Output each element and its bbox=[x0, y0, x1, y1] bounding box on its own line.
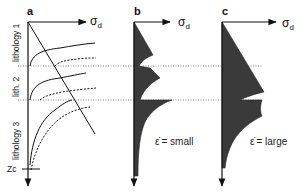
ductile-curve-lith3-dashed bbox=[31, 107, 90, 170]
zc-label: Zc bbox=[7, 164, 17, 174]
ductile-curve-lith2-solid bbox=[30, 73, 86, 100]
panel-b: b σd ε̇= small bbox=[134, 5, 193, 186]
panel-c-label: c bbox=[222, 5, 228, 17]
strength-profile-diagram: a σd lithology 1 lith. 2 lithology 3 Zc … bbox=[0, 0, 302, 194]
sigma-label-c: σd bbox=[282, 16, 294, 32]
sigma-label-a: σd bbox=[90, 14, 102, 30]
sigma-label-b: σd bbox=[178, 15, 190, 31]
panel-c: c σd ε̇= large bbox=[222, 5, 294, 186]
layer-label-lith-2: lith. 2 bbox=[11, 76, 21, 97]
ductile-curve-lith1-solid bbox=[30, 43, 95, 66]
panel-b-label: b bbox=[134, 5, 141, 17]
layer-label-lithology-3: lithology 3 bbox=[11, 121, 21, 160]
strain-rate-large-label: ε̇= large bbox=[250, 136, 288, 147]
layer-label-lithology-1: lithology 1 bbox=[11, 23, 21, 62]
panel-a-label: a bbox=[27, 5, 34, 17]
panel-a: a σd lithology 1 lith. 2 lithology 3 Zc bbox=[7, 5, 102, 186]
strain-rate-small-label: ε̇= small bbox=[155, 136, 193, 147]
strength-envelope-b bbox=[134, 22, 172, 176]
ductile-curve-lith3-solid bbox=[30, 100, 72, 165]
ductile-curve-lith1-dashed bbox=[55, 58, 96, 66]
